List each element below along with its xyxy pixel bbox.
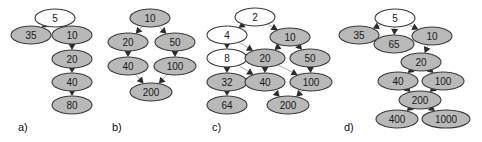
- node-label-c32: 32: [221, 77, 233, 88]
- edge-b100-to-b200: [163, 74, 167, 79]
- node-label-d65: 65: [388, 39, 400, 50]
- arrowhead-icon-b20-to-b40: [124, 51, 131, 57]
- node-label-b50: 50: [169, 37, 181, 48]
- node-label-d40: 40: [392, 76, 404, 87]
- edge-b40-to-b200: [135, 74, 139, 79]
- edge-c2-to-c10: [267, 24, 272, 27]
- node-label-c50: 50: [304, 53, 316, 64]
- panel-a: 53510204080a): [11, 9, 92, 133]
- node-label-a40: 40: [66, 77, 78, 88]
- node-label-c40: 40: [259, 77, 271, 88]
- node-label-c10: 10: [284, 32, 296, 43]
- node-d40[interactable]: 40: [378, 72, 418, 90]
- node-a5[interactable]: 5: [35, 9, 75, 27]
- arrowhead-icon-d5-to-d65: [391, 29, 398, 35]
- node-d35[interactable]: 35: [339, 26, 379, 44]
- node-label-a5: 5: [52, 13, 58, 24]
- arrowhead-icon-c8-to-c40: [246, 68, 253, 74]
- node-b100[interactable]: 100: [154, 57, 196, 75]
- node-label-c4: 4: [224, 30, 230, 41]
- node-b200[interactable]: 200: [130, 83, 172, 101]
- arrowhead-icon-b50-to-b100: [171, 51, 178, 57]
- node-c2[interactable]: 2: [235, 8, 275, 26]
- panel-label-d: d): [344, 121, 354, 133]
- node-b10[interactable]: 10: [130, 9, 170, 27]
- arrowhead-icon-c20-to-c40: [261, 67, 268, 73]
- node-b40[interactable]: 40: [108, 57, 148, 75]
- node-label-d100: 100: [435, 76, 452, 87]
- node-c4[interactable]: 4: [207, 26, 247, 44]
- node-label-c8: 8: [224, 53, 230, 64]
- panel-c: 241082050324010064200c): [207, 8, 332, 133]
- arrowhead-icon-c8-to-c32: [223, 67, 230, 73]
- node-c8[interactable]: 8: [207, 49, 247, 67]
- node-d400[interactable]: 400: [376, 110, 418, 128]
- node-d100[interactable]: 100: [422, 72, 464, 90]
- node-a80[interactable]: 80: [52, 96, 92, 114]
- node-label-b10: 10: [144, 13, 156, 24]
- node-a10[interactable]: 10: [52, 26, 92, 44]
- node-d5[interactable]: 5: [375, 9, 415, 27]
- node-c10[interactable]: 10: [270, 28, 310, 46]
- node-c40[interactable]: 40: [245, 73, 285, 91]
- node-d20[interactable]: 20: [401, 53, 441, 71]
- node-d10[interactable]: 10: [412, 27, 452, 45]
- panel-label-c: c): [212, 121, 221, 133]
- edge-b10-to-b50: [158, 26, 162, 29]
- node-label-d10: 10: [426, 31, 438, 42]
- node-label-a20: 20: [66, 54, 78, 65]
- node-c20[interactable]: 20: [245, 49, 285, 67]
- node-label-d35: 35: [353, 30, 365, 41]
- node-label-d200: 200: [412, 95, 429, 106]
- node-c200[interactable]: 200: [267, 96, 309, 114]
- node-label-a80: 80: [66, 100, 78, 111]
- node-a20[interactable]: 20: [52, 50, 92, 68]
- node-label-b200: 200: [143, 87, 160, 98]
- edge-c8-to-c40: [239, 65, 249, 71]
- node-c100[interactable]: 100: [290, 73, 332, 91]
- node-label-c64: 64: [221, 100, 233, 111]
- node-label-d1000: 1000: [435, 114, 458, 125]
- node-label-d5: 5: [392, 13, 398, 24]
- graph-figure: 53510204080a)10205040100200b)24108205032…: [0, 0, 482, 142]
- node-label-d20: 20: [415, 57, 427, 68]
- panel-label-a: a): [18, 121, 28, 133]
- node-label-c2: 2: [252, 12, 258, 23]
- node-label-c20: 20: [259, 53, 271, 64]
- node-d200[interactable]: 200: [399, 91, 441, 109]
- graph-canvas: 53510204080a)10205040100200b)24108205032…: [0, 0, 482, 142]
- arrowhead-icon-a10-to-a20: [68, 44, 75, 50]
- node-c50[interactable]: 50: [290, 49, 330, 67]
- node-label-b100: 100: [167, 61, 184, 72]
- node-label-c200: 200: [280, 100, 297, 111]
- node-c64[interactable]: 64: [207, 96, 247, 114]
- node-b50[interactable]: 50: [155, 33, 195, 51]
- node-label-d400: 400: [389, 114, 406, 125]
- panel-label-b: b): [112, 121, 122, 133]
- node-a35[interactable]: 35: [11, 26, 51, 44]
- arrowhead-icon-c50-to-c100: [307, 67, 314, 73]
- panel-b: 10205040100200b): [108, 9, 196, 133]
- node-label-c100: 100: [303, 77, 320, 88]
- node-a40[interactable]: 40: [52, 73, 92, 91]
- node-label-b20: 20: [122, 37, 134, 48]
- node-label-a35: 35: [25, 30, 37, 41]
- node-label-b40: 40: [122, 61, 134, 72]
- panel-d: 535651020401002004001000d): [339, 9, 470, 133]
- node-d65[interactable]: 65: [374, 35, 414, 53]
- node-d1000[interactable]: 1000: [422, 110, 470, 128]
- node-label-a10: 10: [66, 30, 78, 41]
- edge-c20-to-c100: [278, 65, 292, 72]
- edge-c4-to-c20: [239, 42, 248, 47]
- node-c32[interactable]: 32: [207, 73, 247, 91]
- node-b20[interactable]: 20: [108, 33, 148, 51]
